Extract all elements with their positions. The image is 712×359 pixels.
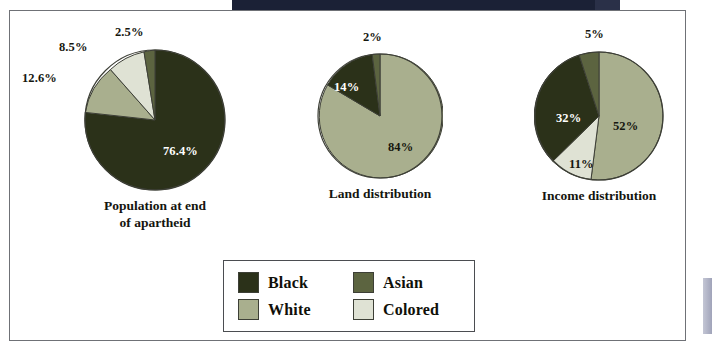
pie-label-black: 14% (334, 80, 359, 95)
pie-caption-income: Income distribution (515, 187, 683, 204)
pie-income-graphic: 52% 11% 32% 5% (534, 51, 664, 181)
pie-chart-land: 84% 14% 2% Land distribution (300, 53, 460, 202)
pie-label-white: 52% (613, 119, 638, 134)
pie-population-graphic: 76.4% 12.6% 8.5% 2.5% (84, 49, 226, 191)
pie-caption-population: Population at end of apartheid (67, 197, 243, 231)
legend-item-colored: Colored (353, 299, 468, 320)
pie-label-colored: 11% (569, 157, 594, 172)
legend-swatch-asian-icon (353, 272, 374, 293)
pie-label-asian: 2% (363, 30, 382, 45)
pie-land-graphic: 84% 14% 2% (317, 53, 443, 179)
legend-swatch-colored-icon (353, 299, 374, 320)
pie-land-svg (317, 53, 443, 179)
page-top-dark-band-edge (595, 0, 620, 10)
figure-frame: 76.4% 12.6% 8.5% 2.5% Population at end … (9, 10, 686, 341)
pie-label-black: 76.4% (163, 144, 198, 159)
pie-slice-white (591, 52, 663, 180)
pie-caption-land: Land distribution (300, 185, 460, 202)
legend-label-asian: Asian (383, 274, 423, 292)
pie-chart-population: 76.4% 12.6% 8.5% 2.5% Population at end … (67, 49, 243, 231)
legend-swatch-black-icon (238, 272, 259, 293)
pie-label-asian: 2.5% (115, 25, 144, 40)
legend-item-black: Black (238, 272, 353, 293)
legend-item-white: White (238, 299, 353, 320)
pie-label-white: 84% (388, 140, 413, 155)
pie-label-black: 32% (556, 111, 581, 126)
pie-label-white: 12.6% (22, 71, 57, 86)
pie-chart-income: 52% 11% 32% 5% Income distribution (515, 51, 683, 204)
pie-label-asian: 5% (585, 27, 604, 42)
legend-item-asian: Asian (353, 272, 468, 293)
pie-label-colored: 8.5% (59, 40, 88, 55)
pie-population-svg (84, 49, 226, 191)
legend-label-colored: Colored (383, 301, 439, 319)
legend-swatch-white-icon (238, 299, 259, 320)
legend-label-black: Black (268, 274, 308, 292)
scan-edge-artifact (703, 278, 712, 334)
pie-income-svg (534, 51, 664, 181)
figure-page: 76.4% 12.6% 8.5% 2.5% Population at end … (0, 0, 712, 359)
chart-legend: Black Asian White Colored (223, 260, 475, 332)
legend-label-white: White (268, 301, 311, 319)
